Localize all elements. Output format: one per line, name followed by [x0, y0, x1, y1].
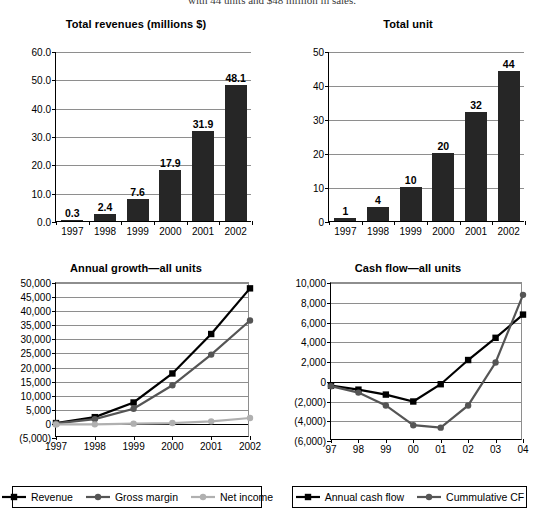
x-tick-mark: [211, 436, 212, 440]
data-point-marker: [130, 399, 136, 405]
gridline: [329, 86, 524, 87]
bar: [367, 207, 389, 221]
y-axis-tick-label: 50: [313, 47, 324, 58]
x-tick-mark: [329, 221, 330, 225]
legend-item[interactable]: Gross margin: [85, 491, 178, 503]
y-axis-tick-label: 5,000: [26, 404, 51, 415]
x-tick-mark: [413, 439, 414, 443]
y-axis-tick-label: 30.0: [32, 132, 51, 143]
y-tick-mark: [325, 154, 329, 155]
legend-item-label: Revenue: [31, 491, 73, 503]
legend-marker-icon: [1, 491, 27, 503]
data-point-marker: [328, 383, 334, 389]
data-point-marker: [492, 335, 498, 341]
legend-item-label: Annual cash flow: [325, 491, 404, 503]
y-tick-mark: [52, 109, 56, 110]
data-point-marker: [438, 381, 444, 387]
x-tick-mark: [56, 221, 57, 225]
chart-title: Total unit: [272, 18, 544, 30]
chart-panel-total-revenues: Total revenues (millions $)0.010.020.030…: [0, 14, 272, 260]
data-point-marker: [169, 420, 175, 426]
y-tick-mark: [325, 52, 329, 53]
y-axis-tick-label: 10.0: [32, 188, 51, 199]
y-axis-tick-label: (6,000): [294, 436, 326, 447]
cropped-caption-text: with 44 units and $48 million in sales.: [0, 0, 544, 9]
x-tick-mark: [523, 439, 524, 443]
x-axis-tick-label: 2000: [432, 226, 454, 237]
data-point-marker: [426, 494, 432, 500]
bar-value-label: 1: [342, 205, 348, 217]
data-point-marker: [95, 494, 101, 500]
x-axis-tick-label: 1998: [84, 441, 106, 452]
data-point-marker: [169, 370, 175, 376]
data-point-marker: [130, 420, 136, 426]
legend-marker-icon: [85, 491, 111, 503]
x-axis-tick-label: 2001: [465, 226, 487, 237]
y-axis-tick-label: (4,000): [294, 416, 326, 427]
legend-item[interactable]: Cummulative CF: [416, 491, 524, 503]
legend-item[interactable]: Revenue: [1, 491, 73, 503]
x-tick-mark: [427, 221, 428, 225]
x-tick-mark: [252, 221, 253, 225]
x-tick-mark: [460, 221, 461, 225]
bar: [334, 218, 356, 221]
x-axis-tick-label: 1999: [122, 441, 144, 452]
x-axis-tick-label: 99: [380, 444, 391, 455]
legend-item[interactable]: Annual cash flow: [295, 491, 404, 503]
x-axis-tick-label: 1999: [400, 226, 422, 237]
plot-area: (5,000)05,00010,00015,00020,00025,00030,…: [55, 282, 249, 437]
legend-marker-icon: [295, 491, 321, 503]
y-tick-mark: [52, 52, 56, 53]
bar: [498, 71, 520, 221]
y-axis-tick-label: 0.0: [37, 217, 51, 228]
data-point-marker: [305, 494, 311, 500]
x-axis-tick-label: 1998: [367, 226, 389, 237]
data-point-marker: [200, 494, 206, 500]
y-axis-tick-label: 30: [313, 115, 324, 126]
y-axis-tick-label: 20: [313, 149, 324, 160]
y-axis-tick-label: 4,000: [301, 337, 326, 348]
x-axis-tick-label: 03: [490, 444, 501, 455]
gridline: [329, 154, 524, 155]
bar-value-label: 20: [437, 140, 449, 152]
x-tick-mark: [362, 221, 363, 225]
bar: [127, 199, 149, 221]
data-point-marker: [92, 421, 98, 427]
y-axis-tick-label: 40.0: [32, 103, 51, 114]
bar-value-label: 4: [375, 194, 381, 206]
y-axis-tick-label: 0: [318, 217, 324, 228]
x-tick-mark: [95, 436, 96, 440]
legend-item[interactable]: Net income: [190, 491, 273, 503]
y-tick-mark: [52, 80, 56, 81]
bar: [432, 153, 454, 221]
y-tick-mark: [52, 137, 56, 138]
series-line: [56, 288, 250, 423]
x-tick-mark: [331, 439, 332, 443]
gridline: [329, 188, 524, 189]
x-tick-mark: [468, 439, 469, 443]
bar: [465, 112, 487, 221]
y-axis-tick-label: 30,000: [20, 334, 51, 345]
chart-panel-cash-flow: Cash flow—all units(6,000)(4,000)(2,000)…: [272, 260, 544, 523]
x-axis-tick-label: 1997: [61, 226, 83, 237]
legend-marker-icon: [416, 491, 442, 503]
series-lines: [56, 283, 250, 438]
plot-area: 0.010.020.030.040.050.060.00.319972.4199…: [55, 52, 251, 222]
gridline: [56, 194, 251, 195]
x-axis-tick-label: 2002: [239, 441, 261, 452]
y-axis-tick-label: 2,000: [301, 357, 326, 368]
data-point-marker: [465, 357, 471, 363]
x-axis-tick-label: 2002: [225, 226, 247, 237]
data-point-marker: [208, 331, 214, 337]
x-axis-tick-label: 2001: [192, 226, 214, 237]
series-lines: [331, 283, 523, 441]
data-point-marker: [492, 359, 498, 365]
gridline: [56, 137, 251, 138]
plot-area: 0102030405011997419981019992020003220014…: [328, 52, 524, 222]
bar: [61, 220, 83, 222]
y-axis-tick-label: 20,000: [20, 362, 51, 373]
legend-item-label: Cummulative CF: [446, 491, 524, 503]
y-axis-tick-label: 50,000: [20, 278, 51, 289]
gridline: [56, 52, 251, 53]
x-tick-mark: [121, 221, 122, 225]
